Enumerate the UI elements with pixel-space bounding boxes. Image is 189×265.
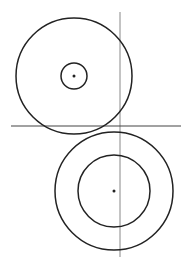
bottom-center-dot <box>113 190 116 193</box>
top-center-dot <box>73 75 76 78</box>
geometry-diagram <box>0 0 189 265</box>
